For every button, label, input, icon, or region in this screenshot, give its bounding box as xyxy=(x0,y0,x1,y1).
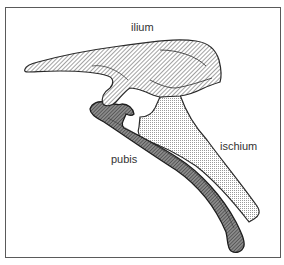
ilium-bone xyxy=(25,40,221,106)
pelvis-diagram xyxy=(0,0,284,265)
ilium-label: ilium xyxy=(131,22,154,33)
ischium-bone xyxy=(138,95,259,222)
pubis-label: pubis xyxy=(111,154,137,165)
ischium-label: ischium xyxy=(220,141,257,152)
